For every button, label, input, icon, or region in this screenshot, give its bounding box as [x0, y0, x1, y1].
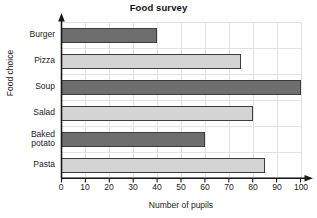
x-axis-tick-labels: 0102030405060708090100: [0, 182, 317, 196]
grid-line-vertical: [301, 22, 302, 178]
x-axis-label: Number of pupils: [61, 200, 301, 210]
category-label: Soup: [0, 82, 55, 92]
plot-area: [61, 22, 301, 178]
category-label: Baked potato: [0, 130, 55, 149]
bar-series: [61, 22, 301, 178]
category-label: Burger: [0, 30, 55, 40]
bar[interactable]: [61, 54, 241, 69]
category-label: Pasta: [0, 160, 55, 170]
bar[interactable]: [61, 106, 253, 121]
bar[interactable]: [61, 158, 265, 173]
bar[interactable]: [61, 132, 205, 147]
bar[interactable]: [61, 28, 157, 43]
category-label: Pizza: [0, 56, 55, 66]
category-label: Salad: [0, 108, 55, 118]
chart-figure: Food survey Food choice BurgerPizzaSoupS…: [0, 0, 317, 218]
chart-title: Food survey: [0, 2, 317, 13]
x-tick-label: 100: [286, 182, 316, 192]
category-tick-labels: BurgerPizzaSoupSaladBaked potatoPasta: [0, 22, 58, 178]
bar[interactable]: [61, 80, 301, 95]
